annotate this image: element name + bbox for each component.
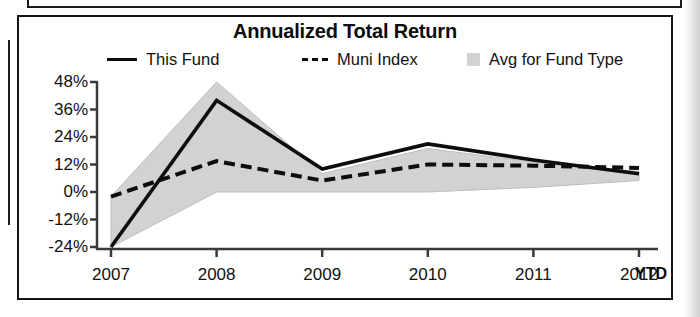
y-axis-tick-label: 36% bbox=[24, 100, 88, 120]
x-axis-ytd-label: YTD bbox=[635, 265, 667, 283]
y-axis-tick-label: -12% bbox=[24, 210, 88, 230]
y-axis-tick-label: 0% bbox=[24, 182, 88, 202]
y-axis: 48%36%24%12%0%-12%-24% bbox=[24, 17, 88, 302]
x-axis-tick-label: 2008 bbox=[198, 265, 236, 285]
y-axis-tick-label: 12% bbox=[24, 155, 88, 175]
x-axis-tick-label: 2009 bbox=[303, 265, 341, 285]
scan-right-edge bbox=[683, 0, 700, 317]
x-axis: 200720082009201020112012 bbox=[19, 265, 675, 295]
top-panel-fragment bbox=[27, 0, 682, 8]
plot-area: 48%36%24%12%0%-12%-24% 20072008200920102… bbox=[19, 17, 675, 302]
y-axis-tick-label: -24% bbox=[24, 237, 88, 257]
x-axis-tick-label: 2007 bbox=[92, 265, 130, 285]
chart-svg bbox=[19, 17, 675, 302]
y-axis-tick-label: 24% bbox=[24, 127, 88, 147]
chart-panel: Annualized Total Return This Fund Muni I… bbox=[17, 15, 673, 300]
y-axis-tick-label: 48% bbox=[24, 72, 88, 92]
x-axis-tick-label: 2010 bbox=[409, 265, 447, 285]
x-axis-tick-label: 2011 bbox=[515, 265, 552, 285]
scan-left-edge bbox=[0, 40, 10, 225]
